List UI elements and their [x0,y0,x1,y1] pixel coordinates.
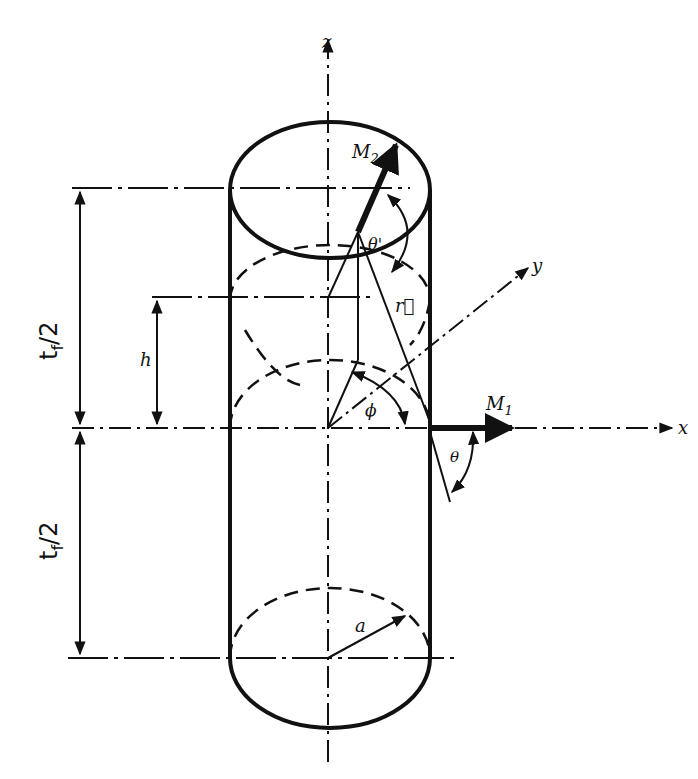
x-axis-label: x [678,417,688,438]
cylinder-bottom-arc [230,658,430,728]
phi-arc [352,372,405,424]
radius-a-arrow [328,616,405,658]
line-origin-to-proj [328,360,358,428]
line-origin-to-m2 [328,232,358,298]
hidden-ellipse-bottom [230,588,430,658]
y-axis-label: y [531,255,543,276]
lower-half-thickness-label: tf/2 [35,522,67,560]
phi-label: ϕ [365,400,377,420]
hidden-ellipse-middle [230,360,430,428]
m1-theta-line [430,432,450,502]
h-label: h [140,349,152,370]
m1-label: M1 [485,393,513,418]
z-axis-label: z [321,31,332,52]
cylinder-diagram: z x y M2 M1 r⃗ θ' ϕ θ h a tf/2 tf/2 [0,0,698,779]
m2-label: M2 [351,141,379,166]
upper-half-thickness-label: tf/2 [35,322,67,360]
r-vector [358,232,430,422]
dimension-lines [68,188,455,658]
hidden-ellipse-upper-lower [245,330,300,385]
cylinder-top-ellipse [230,122,430,258]
radius-a-label: a [355,615,366,636]
r-label: r⃗ [395,295,414,316]
theta-label: θ [450,448,459,466]
theta-prime-label: θ' [368,235,382,254]
